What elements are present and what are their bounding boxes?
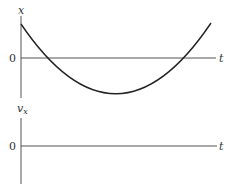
bottom-x-axis-label: t [219, 140, 224, 153]
diagram-canvas: x t 0 vx t 0 [0, 0, 231, 193]
bottom-graph: vx t 0 [9, 102, 224, 184]
bottom-origin-label: 0 [9, 140, 16, 153]
top-graph: x t 0 [9, 4, 224, 98]
top-y-axis-label: x [18, 4, 25, 17]
top-x-axis-label: t [219, 52, 224, 65]
top-origin-label: 0 [9, 52, 16, 65]
bottom-y-axis-label: vx [17, 102, 28, 116]
